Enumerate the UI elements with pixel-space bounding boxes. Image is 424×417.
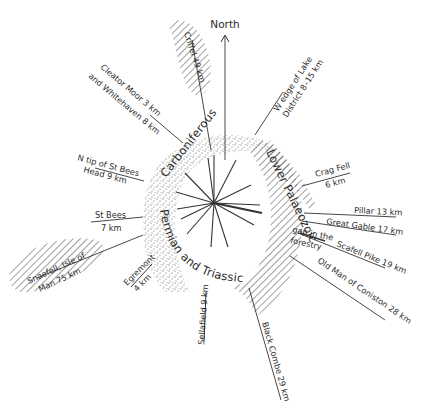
sightline-sellafield: Sellafield 9 km xyxy=(196,284,210,345)
sightline-n-tip-st-bees: N tip of St Bees Head 9 km xyxy=(76,152,144,185)
label-black-combe: Black Combe 29 km xyxy=(260,321,292,403)
sightline-crag-fell: Crag Fell 6 km xyxy=(302,160,351,190)
sightline-st-bees: St Bees 7 km xyxy=(91,210,143,233)
sightline-cleator-moor: Cleator Moor 3 km and Whitehaven 8 km xyxy=(87,62,183,143)
label-scafell-pike: Scafell Pike 19 km xyxy=(335,239,408,276)
label-great-gable: Great Gable 17 km xyxy=(326,216,404,237)
label-sellafield: Sellafield 9 km xyxy=(196,284,210,345)
sightline-egremont: Egremont 4 km xyxy=(121,252,157,294)
north-label: North xyxy=(210,18,239,30)
sightline-pillar: Pillar 13 km xyxy=(304,205,403,218)
label-st-bees-2: 7 km xyxy=(101,223,122,233)
label-st-bees-1: St Bees xyxy=(95,210,126,220)
label-crag-fell-2: 6 km xyxy=(324,175,346,190)
view-diagram: North Criffel 49 km Cleator Moor 3 km an… xyxy=(0,0,424,417)
sightline-w-edge: W edge of Lake District 8–15 km xyxy=(255,55,325,135)
label-crag-fell-1: Crag Fell xyxy=(314,160,351,179)
